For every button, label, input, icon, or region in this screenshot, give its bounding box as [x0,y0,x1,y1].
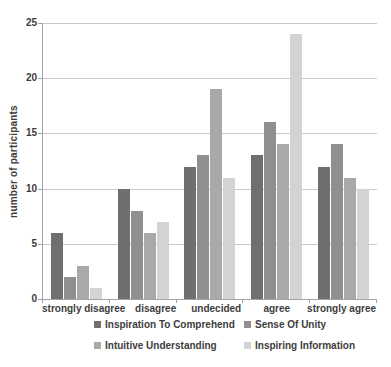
x-tick-mark-5 [376,299,377,303]
y-tick-mark-15 [38,133,42,134]
legend-label: Inspiring Information [255,340,355,351]
bar-sense-of-unity-agree [264,122,276,299]
legend-swatch-icon [94,321,101,328]
y-tick-mark-5 [38,244,42,245]
y-tick-label-0: 0 [6,293,37,305]
bar-group-agree [243,23,310,299]
bar-inspiration-to-comprehend-disagree [118,189,130,299]
bar-sense-of-unity-undecided [197,155,209,299]
x-tick-label-disagree: disagree [125,303,186,314]
y-tick-label-25: 25 [6,17,37,29]
legend-swatch-icon [244,321,251,328]
bar-group-strongly-agree [310,23,377,299]
bar-inspiration-to-comprehend-undecided [184,167,196,299]
bar-intuitive-understanding-undecided [210,89,222,299]
legend-item-inspiring-information: Inspiring Information [244,340,355,351]
bar-group-disagree [110,23,177,299]
x-axis-labels: strongly disagreedisagreeundecidedagrees… [42,303,376,314]
bar-inspiration-to-comprehend-agree [251,155,263,299]
y-tick-mark-20 [38,78,42,79]
legend-item-inspiration-to-comprehend: Inspiration To Comprehend [94,319,244,330]
y-tick-label-10: 10 [6,183,37,195]
legend-label: Inspiration To Comprehend [105,319,235,330]
bar-inspiration-to-comprehend-strongly-agree [318,167,330,299]
legend: Inspiration To ComprehendSense Of UnityI… [94,319,355,351]
legend-label: Intuitive Understanding [105,340,217,351]
y-axis-title-text: number of participants [8,105,19,218]
bar-intuitive-understanding-strongly-agree [344,178,356,299]
bar-inspiring-information-strongly-agree [357,189,369,299]
y-tick-mark-25 [38,23,42,24]
bar-inspiration-to-comprehend-strongly-disagree [51,233,63,299]
x-tick-label-strongly-agree: strongly agree [307,303,376,314]
bar-sense-of-unity-disagree [131,211,143,299]
legend-item-sense-of-unity: Sense Of Unity [244,319,355,330]
bar-group-strongly-disagree [43,23,110,299]
x-tick-label-strongly-disagree: strongly disagree [42,303,125,314]
y-tick-label-15: 15 [6,127,37,139]
legend-item-intuitive-understanding: Intuitive Understanding [94,340,244,351]
legend-label: Sense Of Unity [255,319,326,330]
y-tick-label-5: 5 [6,238,37,250]
legend-swatch-icon [244,342,251,349]
bar-inspiring-information-undecided [223,178,235,299]
y-tick-label-20: 20 [6,72,37,84]
bars-row [43,23,377,299]
bar-intuitive-understanding-strongly-disagree [77,266,89,299]
bar-inspiring-information-disagree [157,222,169,299]
bar-inspiring-information-agree [290,34,302,299]
x-tick-label-undecided: undecided [186,303,247,314]
y-tick-mark-10 [38,189,42,190]
plot-area [42,23,377,300]
bar-chart: number of participants 0510152025 strong… [0,0,391,367]
x-tick-label-agree: agree [247,303,308,314]
legend-swatch-icon [94,342,101,349]
y-axis-title: number of participants [2,23,24,299]
bar-inspiring-information-strongly-disagree [90,288,102,299]
bar-group-undecided [177,23,244,299]
bar-intuitive-understanding-disagree [144,233,156,299]
bar-sense-of-unity-strongly-agree [331,144,343,299]
bar-sense-of-unity-strongly-disagree [64,277,76,299]
bar-intuitive-understanding-agree [277,144,289,299]
